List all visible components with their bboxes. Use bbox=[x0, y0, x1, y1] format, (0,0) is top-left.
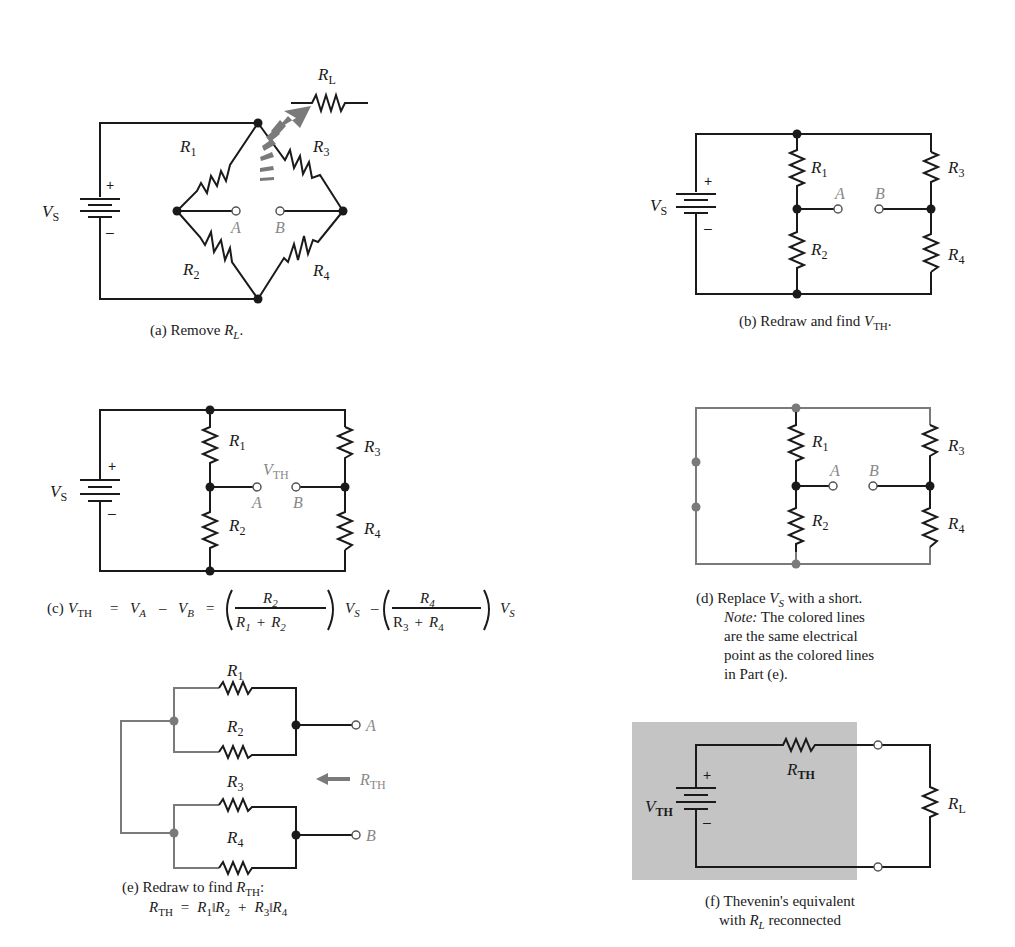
plus-sign: + bbox=[703, 767, 711, 783]
highlight-wire bbox=[174, 721, 219, 752]
wire bbox=[100, 502, 345, 571]
terminal-a bbox=[253, 483, 261, 491]
caption-a: (a) Remove RL. bbox=[150, 322, 243, 341]
node bbox=[206, 406, 215, 415]
node bbox=[692, 503, 701, 512]
resistor-r3 bbox=[923, 425, 937, 486]
rth-label: RTH bbox=[359, 771, 386, 792]
highlight-wire bbox=[174, 833, 219, 868]
resistor-r2 bbox=[790, 209, 804, 294]
terminal-b-label: B bbox=[293, 494, 303, 511]
terminal-a-label: A bbox=[230, 219, 241, 236]
panel-e: A B R1 R2 R3 R4 RTH (e) Redraw to find R… bbox=[121, 661, 386, 918]
node bbox=[206, 567, 215, 576]
node bbox=[927, 205, 936, 214]
terminal-a bbox=[834, 205, 842, 213]
node bbox=[292, 721, 301, 730]
r3-label: R3 bbox=[363, 437, 380, 459]
r4-label: R4 bbox=[312, 261, 329, 283]
svg-text:with RL reconnected: with RL reconnected bbox=[719, 912, 841, 931]
minus-sign: – bbox=[106, 224, 114, 240]
svg-text:VB: VB bbox=[178, 600, 194, 619]
terminal-a-label: A bbox=[829, 462, 840, 479]
caption-d: (d) Replace VS with a short. Note: The c… bbox=[696, 590, 874, 683]
node bbox=[793, 290, 802, 299]
terminal-b bbox=[874, 863, 882, 871]
terminal-b bbox=[352, 831, 360, 839]
terminal-b bbox=[869, 482, 877, 490]
rl-label: RL bbox=[947, 794, 966, 816]
node bbox=[792, 404, 801, 413]
r4-label: R4 bbox=[947, 245, 964, 267]
plus-sign: + bbox=[108, 458, 116, 474]
node bbox=[692, 458, 701, 467]
r1-label: R1 bbox=[810, 158, 827, 180]
r1-label: R1 bbox=[179, 137, 196, 159]
panel-b: + – VS A B R1 R2 R3 R4 (b) Redraw and fi… bbox=[650, 130, 964, 333]
terminal-a bbox=[874, 741, 882, 749]
minus-sign: – bbox=[704, 220, 712, 236]
node bbox=[254, 295, 263, 304]
node bbox=[792, 560, 801, 569]
r2-label: R2 bbox=[226, 717, 243, 739]
node bbox=[793, 205, 802, 214]
r3-label: R3 bbox=[947, 158, 964, 180]
paren-right bbox=[328, 590, 333, 630]
caption-f: (f) Thevenin's equivalent with RL reconn… bbox=[705, 893, 856, 931]
node bbox=[792, 482, 801, 491]
terminal-a-label: A bbox=[251, 494, 262, 511]
node bbox=[341, 483, 350, 492]
svg-text:in Part (e).: in Part (e). bbox=[724, 666, 788, 683]
svg-text:VTH: VTH bbox=[68, 600, 92, 619]
terminal-a-label: A bbox=[365, 717, 376, 734]
wire bbox=[100, 410, 345, 480]
resistor-r1 bbox=[203, 410, 217, 487]
highlight-wire bbox=[174, 805, 219, 833]
highlight-wire bbox=[121, 721, 174, 833]
minus-sign: – bbox=[108, 505, 116, 521]
battery-symbol bbox=[80, 480, 120, 501]
resistor-r1 bbox=[789, 412, 803, 486]
thevenin-bridge-figure: + – VS A B R1 R2 R3 R4 RL bbox=[0, 0, 1015, 947]
terminal-b-label: B bbox=[275, 219, 285, 236]
r4-label: R4 bbox=[226, 828, 243, 850]
resistor-r3 bbox=[338, 427, 352, 487]
plus-sign: + bbox=[704, 173, 712, 189]
highlight-wire bbox=[174, 688, 219, 721]
r4-label: R4 bbox=[363, 519, 380, 541]
node bbox=[339, 207, 348, 216]
source-label: VS bbox=[42, 202, 59, 224]
panel-a: + – VS A B R1 R2 R3 R4 RL bbox=[42, 65, 368, 341]
node bbox=[292, 831, 301, 840]
resistor-r2 bbox=[789, 486, 803, 552]
paren-right bbox=[484, 590, 489, 630]
svg-text:Note: The colored lines: Note: The colored lines bbox=[723, 609, 865, 625]
svg-text:=: = bbox=[110, 600, 118, 616]
resistor-r1 bbox=[790, 134, 804, 209]
terminal-a bbox=[232, 207, 240, 215]
terminal-a-label: A bbox=[834, 185, 845, 202]
svg-text:(e) Redraw to find RTH:: (e) Redraw to find RTH: bbox=[122, 879, 264, 898]
resistor-r2 bbox=[177, 211, 258, 299]
svg-text:R1+R2: R1+R2 bbox=[235, 614, 286, 633]
paren-left bbox=[227, 590, 232, 630]
resistor-r3 bbox=[924, 152, 938, 209]
node bbox=[793, 130, 802, 139]
svg-text:(c): (c) bbox=[47, 600, 64, 617]
caption-b: (b) Redraw and find VTH. bbox=[739, 313, 892, 332]
terminal-b-label: B bbox=[366, 827, 376, 844]
r2-label: R2 bbox=[810, 240, 827, 262]
vth-equation: (c) VTH = VA – VB = R2 R1+R2 VS – R4 R3+… bbox=[47, 590, 515, 633]
resistor-r4 bbox=[258, 211, 343, 299]
node bbox=[254, 119, 263, 128]
r2-label: R2 bbox=[182, 260, 199, 282]
r4-label: R4 bbox=[947, 514, 964, 536]
paren-left bbox=[384, 590, 389, 630]
terminal-b bbox=[276, 207, 284, 215]
svg-text:are the same electrical: are the same electrical bbox=[724, 628, 858, 644]
svg-text:RTH=R1‖R2+R3‖R4: RTH=R1‖R2+R3‖R4 bbox=[148, 899, 288, 918]
svg-text:–: – bbox=[370, 600, 379, 616]
terminal-b bbox=[875, 205, 883, 213]
remove-arrow-icon bbox=[260, 106, 311, 181]
r2-label: R2 bbox=[228, 516, 245, 538]
